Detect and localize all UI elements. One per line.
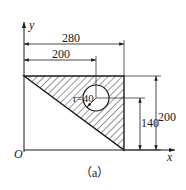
triangle-diagram: 280 200 200 140 r=40 y x O （a）	[0, 0, 186, 190]
figure-caption: （a）	[80, 166, 109, 180]
radius-label: r=40	[73, 92, 94, 104]
extension-lines	[124, 40, 161, 150]
origin-label: O	[14, 147, 23, 161]
dim-200-vertical-label: 200	[158, 110, 176, 124]
y-axis-label: y	[28, 18, 35, 32]
dim-200-horizontal: 200	[24, 47, 96, 61]
dim-280-label: 280	[62, 31, 80, 45]
dim-200-vertical: 200	[156, 76, 176, 150]
x-axis-label: x	[166, 150, 173, 164]
dim-140-label: 140	[141, 116, 159, 130]
dim-280: 280	[24, 31, 124, 45]
hatched-triangle	[24, 76, 124, 150]
dim-200-horizontal-label: 200	[52, 47, 70, 61]
